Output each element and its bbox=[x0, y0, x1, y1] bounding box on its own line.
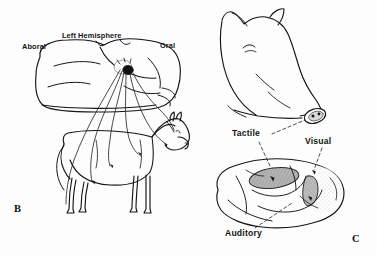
brain-notch-2 bbox=[120, 40, 130, 44]
label-tactile: Tactile bbox=[232, 128, 260, 138]
projection-line-trunk bbox=[91, 71, 122, 182]
sensory-focus-spot bbox=[123, 65, 133, 74]
projection-line-hindlimb bbox=[66, 70, 120, 204]
projection-line-shoulder bbox=[126, 73, 139, 154]
horse-flank-line bbox=[96, 140, 98, 168]
horse-rump bbox=[61, 144, 70, 179]
horse-body-outline bbox=[63, 125, 175, 145]
panel-c-artwork bbox=[217, 9, 344, 228]
label-oral: Oral bbox=[160, 41, 175, 50]
horse-figure bbox=[57, 112, 190, 213]
brain-sulcus-4 bbox=[124, 86, 160, 94]
pig-brain-sulcus-5 bbox=[228, 200, 272, 221]
brain-caudal-lobe bbox=[158, 95, 170, 106]
panel-b-artwork bbox=[36, 39, 190, 213]
leader-tactile-to-snout bbox=[272, 120, 305, 134]
label-auditory: Auditory bbox=[225, 228, 262, 238]
pig-ear-right bbox=[270, 9, 284, 25]
pig-cheek-fold bbox=[268, 92, 290, 108]
horse-eye bbox=[176, 131, 180, 133]
horse-ear-2 bbox=[176, 112, 181, 121]
horse-hindleg-2 bbox=[79, 182, 88, 212]
label-left-hemisphere: Left Hemisphere bbox=[62, 31, 121, 40]
label-visual: Visual bbox=[305, 136, 331, 146]
brain-sulcus-1 bbox=[54, 62, 100, 66]
pig-nostril-2 bbox=[318, 113, 321, 116]
pig-cheek-line bbox=[221, 21, 257, 115]
brain-sulcus-5 bbox=[148, 58, 160, 88]
panel-letter-c: C bbox=[352, 233, 360, 244]
panel-letter-b: B bbox=[14, 203, 21, 214]
leader-tactile-to-cortex bbox=[259, 142, 270, 166]
horse-chest bbox=[150, 137, 153, 172]
projection-arrowheads bbox=[92, 143, 168, 184]
horse-foreleg-1 bbox=[144, 175, 151, 213]
figure-root: Aboral Left Hemisphere Oral Tactile Visu… bbox=[0, 0, 377, 255]
pig-jaw-line bbox=[234, 110, 302, 118]
pig-head-outline bbox=[222, 12, 322, 114]
brain-sulcus-2 bbox=[48, 82, 90, 87]
pig-eye-lid bbox=[245, 51, 256, 53]
figure-artwork bbox=[0, 0, 377, 255]
focus-tick-3 bbox=[130, 59, 131, 63]
label-aboral: Aboral bbox=[22, 42, 46, 51]
pig-nostril-1 bbox=[312, 115, 315, 118]
pig-eye bbox=[243, 45, 255, 48]
pig-brow-fold bbox=[256, 74, 274, 90]
projection-lines bbox=[66, 70, 174, 204]
visual-area bbox=[303, 176, 318, 206]
